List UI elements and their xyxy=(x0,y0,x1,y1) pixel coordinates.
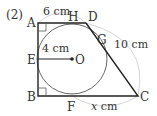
label-point-c: C xyxy=(140,90,149,104)
trapezoid-incircle-diagram: (2) A H D G E O B F C 6 cm 4 cm 10 cm x … xyxy=(0,0,157,116)
unit-cm: cm xyxy=(97,100,118,113)
right-angle-marker-a xyxy=(38,23,46,31)
dimension-label-ad: 6 cm xyxy=(43,5,71,18)
label-point-f: F xyxy=(67,100,75,114)
label-point-a: A xyxy=(26,16,36,30)
dimension-label-fc: x cm xyxy=(91,100,118,113)
label-point-d: D xyxy=(88,10,98,24)
problem-number: (2) xyxy=(6,8,23,22)
center-point-o xyxy=(70,57,74,61)
label-point-e: E xyxy=(27,53,36,67)
dimension-label-dc: 10 cm xyxy=(114,38,149,51)
label-point-o: O xyxy=(75,53,85,67)
label-point-b: B xyxy=(27,90,36,104)
dimension-label-radius: 4 cm xyxy=(42,42,70,55)
label-point-g: G xyxy=(97,33,107,47)
right-angle-marker-b xyxy=(38,88,46,96)
